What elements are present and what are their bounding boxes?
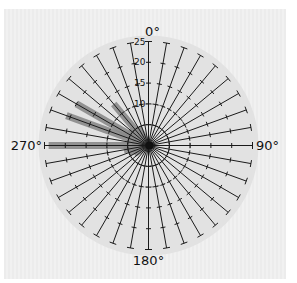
radial-tick-label-20: 20 (134, 57, 146, 67)
angle-label-90: 90° (256, 138, 279, 153)
center-hub (146, 142, 154, 150)
angle-label-180: 180° (133, 253, 164, 268)
radial-tick-label-10: 10 (134, 99, 146, 109)
radial-tick-label-15: 15 (134, 78, 145, 88)
radial-tick-label-25: 25 (134, 37, 145, 47)
angle-label-270: 270° (11, 138, 42, 153)
polar-chart: 10152025 0°90°180°270° (0, 0, 297, 283)
angle-label-0: 0° (145, 24, 160, 39)
